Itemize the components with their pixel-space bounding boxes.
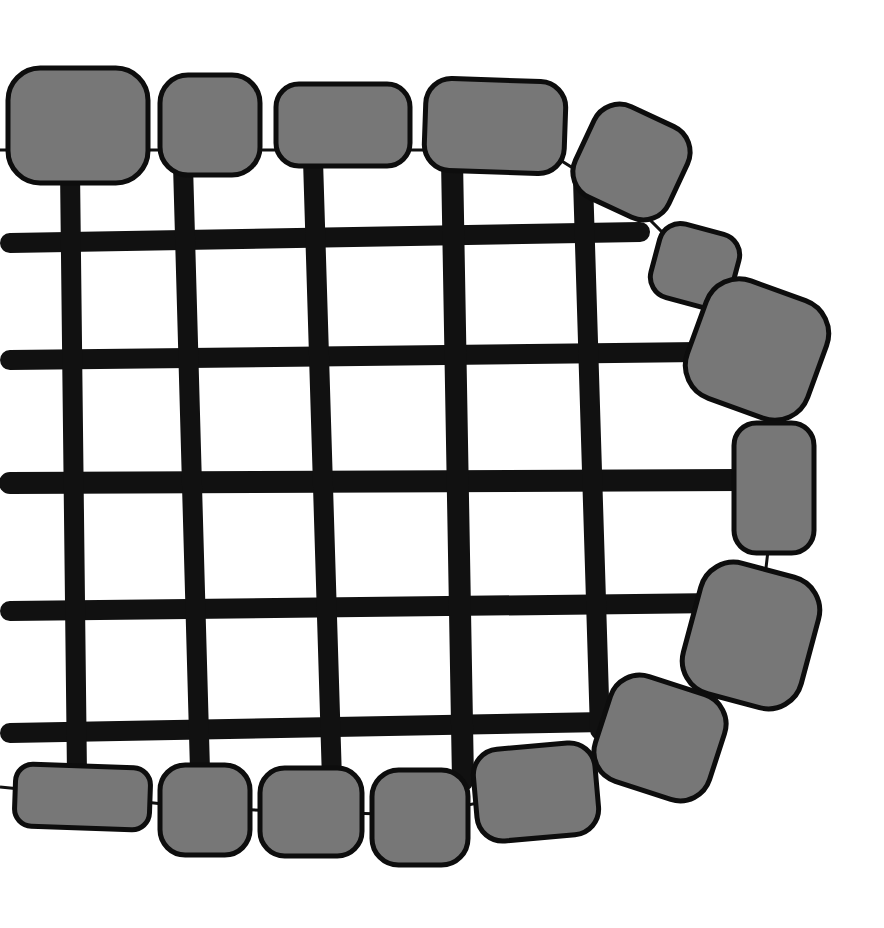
vertical-bar bbox=[70, 170, 77, 775]
horizontal-bar bbox=[10, 722, 605, 733]
stone-shape bbox=[160, 75, 260, 175]
vertical-bar bbox=[452, 160, 463, 780]
stone-shape bbox=[423, 78, 566, 175]
stone-shape bbox=[8, 68, 148, 183]
grid-illustration bbox=[0, 0, 884, 928]
stone-shape bbox=[14, 764, 151, 831]
stone-shape bbox=[276, 84, 410, 166]
horizontal-bar bbox=[10, 480, 740, 483]
stone-shape bbox=[160, 765, 250, 855]
stone-shape bbox=[260, 768, 362, 856]
horizontal-bar bbox=[10, 603, 720, 611]
stone-shape bbox=[471, 741, 601, 843]
stone-shape bbox=[372, 770, 468, 865]
stone-shape bbox=[734, 423, 814, 553]
